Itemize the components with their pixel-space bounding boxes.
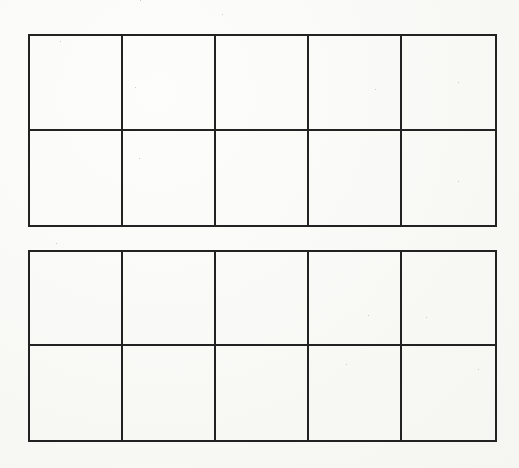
ten-frame-2-cell: [216, 346, 309, 440]
scan-speck: [140, 0, 141, 1]
ten-frame-2-cell: [30, 252, 123, 346]
ten-frame-2-cell: [216, 252, 309, 346]
ten-frame-2-cell: [123, 346, 216, 440]
scan-speck: [426, 317, 427, 318]
scan-speck: [56, 243, 57, 244]
ten-frame-2-cell: [309, 252, 402, 346]
scan-speck: [478, 369, 479, 370]
ten-frame-1-cell: [216, 36, 309, 131]
ten-frame-1: [28, 34, 497, 227]
ten-frame-2-cell: [30, 346, 123, 440]
scan-speck: [458, 181, 459, 182]
ten-frame-1-cell: [309, 131, 402, 226]
ten-frame-2-cell: [402, 252, 495, 346]
ten-frame-1-cell: [402, 36, 495, 131]
ten-frame-1-cell: [30, 131, 123, 226]
ten-frame-1-cell: [216, 131, 309, 226]
scan-speck: [375, 89, 376, 90]
ten-frame-2-cell: [123, 252, 216, 346]
ten-frame-2-cell: [402, 346, 495, 440]
scan-speck: [135, 87, 136, 88]
scan-speck: [368, 315, 369, 316]
ten-frame-1-cell: [30, 36, 123, 131]
scan-speck: [139, 158, 140, 159]
ten-frame-1-cell: [123, 131, 216, 226]
scan-speck: [222, 14, 223, 15]
ten-frame-1-cell: [123, 36, 216, 131]
scan-speck: [60, 41, 61, 42]
worksheet-page: [0, 0, 519, 468]
ten-frame-1-cell: [402, 131, 495, 226]
ten-frame-1-cell: [309, 36, 402, 131]
scan-speck: [346, 364, 347, 365]
scan-speck: [458, 82, 459, 83]
ten-frame-2-cell: [309, 346, 402, 440]
ten-frame-2: [28, 250, 497, 442]
